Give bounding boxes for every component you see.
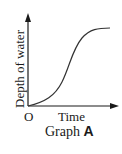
caption-letter: A	[84, 123, 94, 139]
y-axis-arrow-icon	[25, 13, 31, 22]
x-axis-label: Time	[58, 110, 85, 123]
origin-label: O	[24, 110, 33, 123]
graph-a-figure: Depth of water O Time Graph A	[0, 0, 122, 154]
depth-curve	[28, 28, 110, 106]
x-axis-arrow-icon	[110, 103, 119, 109]
y-axis-label: Depth of water	[13, 30, 26, 108]
caption-prefix: Graph	[45, 124, 84, 139]
graph-caption: Graph A	[45, 124, 94, 139]
